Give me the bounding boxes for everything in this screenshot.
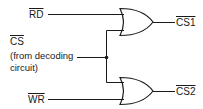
rd-label: RD — [29, 9, 43, 20]
cs-note-line2: circuit) — [10, 62, 38, 73]
cs-label: CS — [10, 36, 24, 47]
junction-dot — [105, 56, 109, 60]
cs1-label: CS1 — [176, 17, 195, 28]
cs-bus — [107, 31, 125, 83]
cs2-label: CS2 — [176, 86, 195, 97]
or-gate-bottom — [120, 78, 153, 105]
or-gate-top — [120, 9, 153, 36]
cs-note-line1: (from decoding — [10, 50, 73, 61]
wr-label: WR — [28, 94, 45, 105]
